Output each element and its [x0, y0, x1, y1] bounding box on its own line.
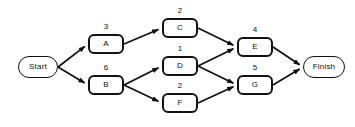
edge-b-to-f: [124, 85, 158, 101]
activity-duration-d: 1: [162, 45, 198, 53]
edge-b-to-d: [124, 68, 158, 85]
edge-f-to-g: [198, 87, 233, 103]
edge-start-to-a: [58, 46, 85, 67]
node-d[interactable]: D: [162, 56, 198, 76]
node-label-g: G: [252, 81, 258, 89]
edge-d-to-g: [198, 66, 233, 83]
edge-start-to-b: [58, 67, 85, 83]
edge-c-to-e: [198, 28, 233, 45]
activity-duration-e: 4: [237, 26, 273, 34]
activity-duration-b: 6: [88, 64, 124, 72]
node-e[interactable]: E: [237, 37, 273, 57]
edge-a-to-c: [124, 30, 158, 44]
activity-duration-f: 2: [162, 82, 198, 90]
node-label-a: A: [103, 40, 109, 48]
node-label-b: B: [103, 81, 109, 89]
activity-duration-c: 2: [162, 7, 198, 15]
network-diagram: Start3A6B2C1D2F4E5GFinish: [0, 0, 355, 127]
node-label-c: C: [177, 24, 183, 32]
edge-d-to-e: [198, 49, 233, 66]
node-g[interactable]: G: [237, 75, 273, 95]
node-label-finish: Finish: [313, 63, 336, 71]
activity-duration-g: 5: [237, 64, 273, 72]
node-finish[interactable]: Finish: [303, 56, 345, 78]
node-label-start: Start: [29, 63, 47, 71]
node-c[interactable]: C: [162, 18, 198, 38]
node-f[interactable]: F: [162, 93, 198, 113]
node-label-e: E: [252, 43, 258, 51]
edge-e-to-finish: [273, 47, 300, 65]
edge-g-to-finish: [273, 69, 300, 85]
activity-duration-a: 3: [88, 23, 124, 31]
node-b[interactable]: B: [88, 75, 124, 95]
node-label-f: F: [177, 99, 182, 107]
node-a[interactable]: A: [88, 34, 124, 54]
node-label-d: D: [177, 62, 183, 70]
node-start[interactable]: Start: [18, 56, 58, 78]
